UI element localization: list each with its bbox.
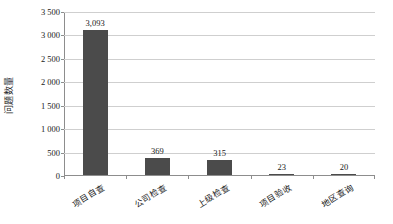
- y-tick-mark: [61, 82, 64, 83]
- x-tick-mark: [313, 176, 314, 179]
- y-tick-mark: [61, 129, 64, 130]
- x-tick-mark: [251, 176, 252, 179]
- y-tick-mark: [61, 106, 64, 107]
- bar[interactable]: [269, 174, 294, 176]
- bar-value-label: 23: [257, 163, 307, 172]
- bar[interactable]: [83, 30, 108, 175]
- y-tick-label: 500: [20, 149, 60, 158]
- y-axis-line: [64, 12, 65, 176]
- bar[interactable]: [145, 158, 170, 175]
- y-tick-mark: [61, 153, 64, 154]
- y-tick-label: 1 000: [20, 125, 60, 134]
- y-tick-label: 2 500: [20, 55, 60, 64]
- plot-area: 3,0933693152320: [64, 12, 375, 176]
- x-tick-mark: [188, 176, 189, 179]
- bar-value-label: 315: [195, 149, 245, 158]
- y-axis-title: 问题数量: [0, 62, 18, 128]
- y-tick-label: 3 500: [20, 8, 60, 17]
- bar[interactable]: [331, 174, 356, 176]
- gridline: [64, 12, 375, 13]
- y-tick-label: 3 000: [20, 31, 60, 40]
- x-category-label: 项目自查: [62, 182, 106, 215]
- y-tick-mark: [61, 59, 64, 60]
- y-tick-mark: [61, 35, 64, 36]
- x-axis-line: [64, 175, 375, 176]
- gridline: [64, 59, 375, 60]
- y-tick-mark: [61, 12, 64, 13]
- gridline: [64, 106, 375, 107]
- bar-value-label: 20: [319, 163, 369, 172]
- x-category-label: 公司检查: [124, 182, 168, 215]
- y-tick-label: 2 000: [20, 78, 60, 87]
- gridline: [64, 129, 375, 130]
- bar-value-label: 3,093: [70, 19, 120, 28]
- gridline: [64, 82, 375, 83]
- x-tick-mark: [64, 176, 65, 179]
- gridline: [64, 35, 375, 36]
- x-tick-mark: [126, 176, 127, 179]
- bar[interactable]: [207, 160, 232, 175]
- bar-chart: 问题数量 05001 0001 5002 0002 5003 0003 500 …: [0, 0, 393, 224]
- x-category-label: 上级检查: [186, 182, 230, 215]
- x-tick-mark: [374, 176, 375, 179]
- y-axis-tick-labels: 05001 0001 5002 0002 5003 0003 500: [22, 0, 62, 224]
- bar-value-label: 369: [132, 147, 182, 156]
- y-tick-label: 0: [20, 172, 60, 181]
- x-category-label: 项目验收: [249, 182, 293, 215]
- y-tick-label: 1 500: [20, 102, 60, 111]
- x-category-label: 地区查询: [311, 182, 355, 215]
